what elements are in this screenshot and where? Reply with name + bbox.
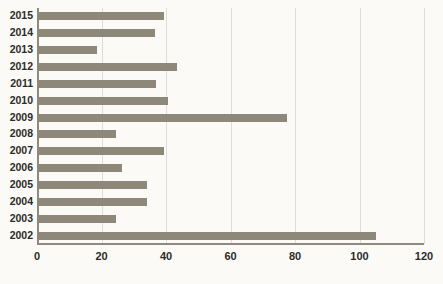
bar (37, 114, 287, 122)
x-axis-tick-label: 0 (34, 250, 40, 262)
bar (37, 29, 155, 37)
y-axis-tick-label: 2005 (0, 178, 33, 190)
y-axis-tick-label: 2002 (0, 229, 33, 241)
x-axis-tick-label: 100 (350, 250, 368, 262)
bar (37, 130, 116, 138)
plot-area (37, 8, 424, 244)
y-axis-tick-label: 2010 (0, 94, 33, 106)
bar (37, 46, 97, 54)
y-axis-tick-label: 2009 (0, 111, 33, 123)
y-axis-tick-label: 2004 (0, 195, 33, 207)
bar (37, 97, 168, 105)
bar (37, 198, 147, 206)
x-axis-tick-label: 60 (224, 250, 236, 262)
x-axis-line (37, 243, 424, 245)
bar (37, 215, 116, 223)
bar (37, 12, 164, 20)
bar (37, 147, 164, 155)
y-axis-tick-label: 2014 (0, 26, 33, 38)
y-axis-tick-label: 2013 (0, 43, 33, 55)
x-axis-tick-label: 20 (95, 250, 107, 262)
y-axis-tick-label: 2011 (0, 77, 33, 89)
bar (37, 232, 376, 240)
y-axis-tick-label: 2003 (0, 212, 33, 224)
bar (37, 63, 177, 71)
bar (37, 80, 156, 88)
x-axis-tick-label: 80 (289, 250, 301, 262)
y-axis-tick-label: 2007 (0, 144, 33, 156)
gridline (424, 8, 425, 244)
y-axis-tick-label: 2006 (0, 161, 33, 173)
bar (37, 164, 122, 172)
y-axis-tick-label: 2008 (0, 127, 33, 139)
bar (37, 181, 147, 189)
horizontal-bar-chart: 2015201420132012201120102009200820072006… (0, 0, 443, 284)
x-axis-tick-label: 40 (160, 250, 172, 262)
y-axis-tick-label: 2012 (0, 60, 33, 72)
x-axis-tick-label: 120 (415, 250, 433, 262)
y-axis-tick-label: 2015 (0, 9, 33, 21)
bars-layer (37, 8, 424, 244)
